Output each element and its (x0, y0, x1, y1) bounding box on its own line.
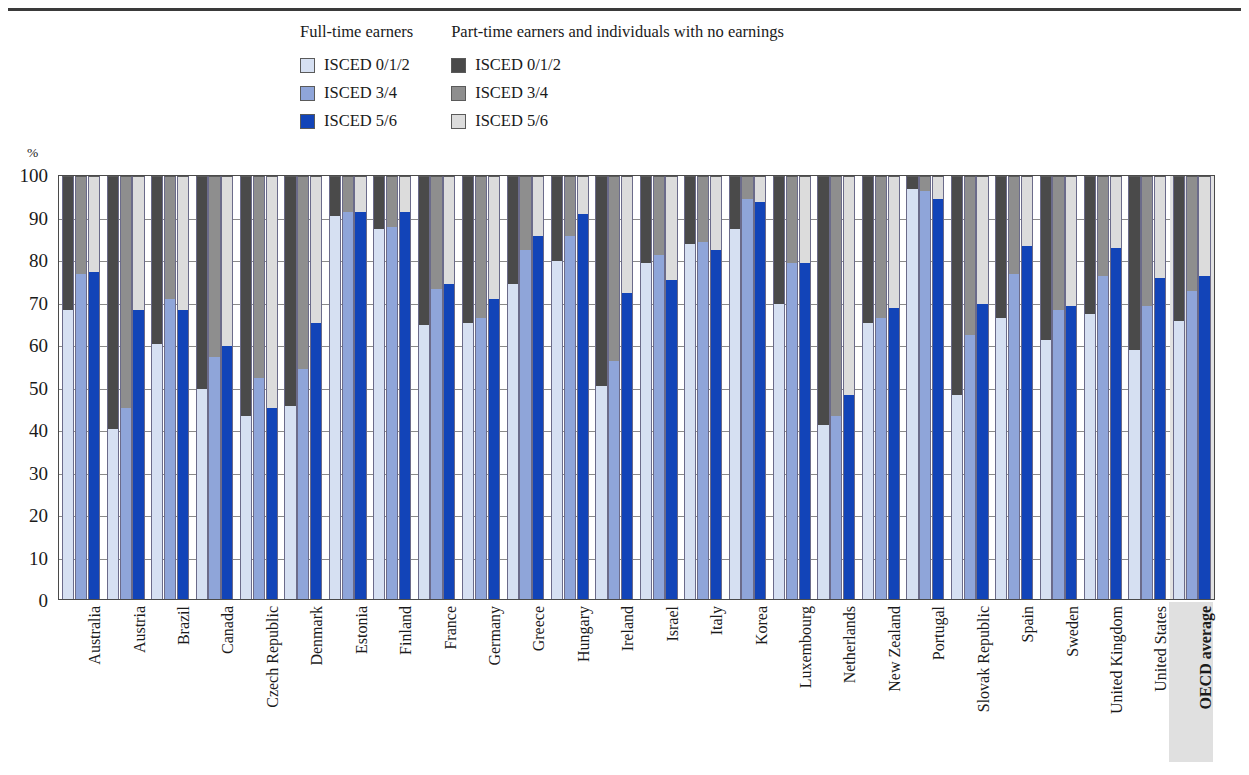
x-axis-tick-label: Australia (86, 606, 104, 665)
stacked-bar[interactable] (710, 176, 722, 599)
bar-segment-full-time (164, 299, 176, 600)
stacked-bar[interactable] (208, 176, 220, 599)
stacked-bar[interactable] (741, 176, 753, 599)
stacked-bar[interactable] (240, 176, 252, 599)
stacked-bar[interactable] (342, 176, 354, 599)
stacked-bar[interactable] (120, 176, 132, 599)
stacked-bar[interactable] (462, 176, 474, 599)
stacked-bar[interactable] (297, 176, 309, 599)
bar-segment-part-time (1065, 176, 1077, 306)
bar-group (814, 176, 858, 599)
stacked-bar[interactable] (177, 176, 189, 599)
stacked-bar[interactable] (430, 176, 442, 599)
stacked-bar[interactable] (995, 176, 1007, 599)
stacked-bar[interactable] (519, 176, 531, 599)
stacked-bar[interactable] (373, 176, 385, 599)
bar-segment-full-time (151, 344, 163, 600)
stacked-bar[interactable] (386, 176, 398, 599)
stacked-bar[interactable] (1052, 176, 1064, 599)
bar-segment-part-time (665, 176, 677, 280)
bar-group (770, 176, 814, 599)
stacked-bar[interactable] (253, 176, 265, 599)
bar-segment-full-time (177, 310, 189, 600)
stacked-bar[interactable] (640, 176, 652, 599)
stacked-bar[interactable] (665, 176, 677, 599)
stacked-bar[interactable] (729, 176, 741, 599)
stacked-bar[interactable] (164, 176, 176, 599)
stacked-bar[interactable] (418, 176, 430, 599)
stacked-bar[interactable] (906, 176, 918, 599)
legend-item[interactable]: ISCED 3/4 (451, 79, 784, 107)
chart-legend: Full-time earnersISCED 0/1/2ISCED 3/4ISC… (300, 22, 784, 135)
stacked-bar[interactable] (443, 176, 455, 599)
legend-item[interactable]: ISCED 0/1/2 (300, 51, 413, 79)
stacked-bar[interactable] (843, 176, 855, 599)
legend-item[interactable]: ISCED 3/4 (300, 79, 413, 107)
stacked-bar[interactable] (1186, 176, 1198, 599)
stacked-bar[interactable] (1154, 176, 1166, 599)
stacked-bar[interactable] (608, 176, 620, 599)
legend-item[interactable]: ISCED 5/6 (300, 107, 413, 135)
stacked-bar[interactable] (329, 176, 341, 599)
stacked-bar[interactable] (830, 176, 842, 599)
stacked-bar[interactable] (1040, 176, 1052, 599)
stacked-bar[interactable] (754, 176, 766, 599)
stacked-bar[interactable] (475, 176, 487, 599)
stacked-bar[interactable] (1097, 176, 1109, 599)
stacked-bar[interactable] (1198, 176, 1210, 599)
stacked-bar[interactable] (684, 176, 696, 599)
bar-segment-part-time (875, 176, 887, 318)
bar-segment-part-time (354, 176, 366, 212)
stacked-bar[interactable] (875, 176, 887, 599)
stacked-bar[interactable] (773, 176, 785, 599)
stacked-bar[interactable] (221, 176, 233, 599)
plot-area (58, 175, 1215, 600)
stacked-bar[interactable] (964, 176, 976, 599)
stacked-bar[interactable] (595, 176, 607, 599)
stacked-bar[interactable] (507, 176, 519, 599)
stacked-bar[interactable] (266, 176, 278, 599)
stacked-bar[interactable] (817, 176, 829, 599)
stacked-bar[interactable] (88, 176, 100, 599)
stacked-bar[interactable] (564, 176, 576, 599)
x-axis-tick-label: Greece (530, 606, 548, 651)
stacked-bar[interactable] (1084, 176, 1096, 599)
stacked-bar[interactable] (310, 176, 322, 599)
stacked-bar[interactable] (888, 176, 900, 599)
stacked-bar[interactable] (932, 176, 944, 599)
stacked-bar[interactable] (399, 176, 411, 599)
stacked-bar[interactable] (132, 176, 144, 599)
stacked-bar[interactable] (532, 176, 544, 599)
stacked-bar[interactable] (551, 176, 563, 599)
stacked-bar[interactable] (577, 176, 589, 599)
bar-segment-full-time (653, 255, 665, 600)
stacked-bar[interactable] (1065, 176, 1077, 599)
stacked-bar[interactable] (799, 176, 811, 599)
stacked-bar[interactable] (862, 176, 874, 599)
stacked-bar[interactable] (488, 176, 500, 599)
stacked-bar[interactable] (354, 176, 366, 599)
bar-segment-part-time (684, 176, 696, 244)
stacked-bar[interactable] (62, 176, 74, 599)
stacked-bar[interactable] (1008, 176, 1020, 599)
stacked-bar[interactable] (919, 176, 931, 599)
legend-item[interactable]: ISCED 5/6 (451, 107, 784, 135)
stacked-bar[interactable] (1173, 176, 1185, 599)
stacked-bar[interactable] (107, 176, 119, 599)
stacked-bar[interactable] (653, 176, 665, 599)
stacked-bar[interactable] (151, 176, 163, 599)
stacked-bar[interactable] (284, 176, 296, 599)
stacked-bar[interactable] (697, 176, 709, 599)
stacked-bar[interactable] (1110, 176, 1122, 599)
stacked-bar[interactable] (621, 176, 633, 599)
stacked-bar[interactable] (196, 176, 208, 599)
stacked-bar[interactable] (786, 176, 798, 599)
legend-item[interactable]: ISCED 0/1/2 (451, 51, 784, 79)
bar-group (1125, 176, 1169, 599)
stacked-bar[interactable] (1141, 176, 1153, 599)
stacked-bar[interactable] (976, 176, 988, 599)
stacked-bar[interactable] (75, 176, 87, 599)
stacked-bar[interactable] (1128, 176, 1140, 599)
stacked-bar[interactable] (1021, 176, 1033, 599)
stacked-bar[interactable] (951, 176, 963, 599)
